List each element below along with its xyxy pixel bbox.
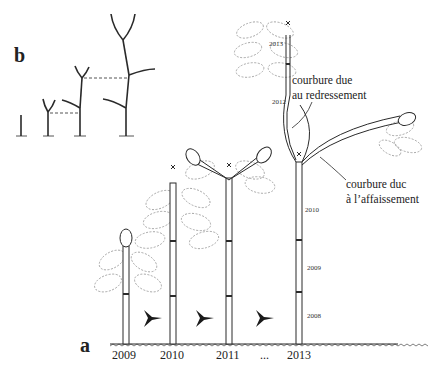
panel-b-label: b (14, 44, 25, 67)
annotation-redressement-line1: courbure due (292, 73, 366, 88)
segment-2013: 2013 (269, 40, 283, 48)
year-ellipsis: ... (260, 348, 269, 363)
year-label-2009: 2009 (112, 348, 136, 363)
annotation-redressement: courbure due au redressement (292, 73, 366, 103)
annotation-affaissement: courbure duc à l’affaissement (346, 177, 419, 207)
year-label-2011: 2011 (216, 348, 240, 363)
annotation-redressement-line2: au redressement (292, 88, 366, 103)
year-label-2010: 2010 (160, 348, 184, 363)
segment-2008: 2008 (307, 312, 321, 320)
year-label-2013: 2013 (287, 348, 311, 363)
segment-2012: 2012 (272, 98, 286, 106)
segment-2009: 2009 (307, 264, 321, 272)
annotation-affaissement-line2: à l’affaissement (346, 192, 419, 207)
segment-2010: 2010 (305, 206, 319, 214)
annotation-affaissement-line1: courbure duc (346, 177, 419, 192)
panel-b-guides (50, 78, 127, 113)
panel-a-label: a (80, 334, 90, 357)
growth-arrows (144, 310, 274, 327)
panel-b-schematic (21, 14, 155, 136)
